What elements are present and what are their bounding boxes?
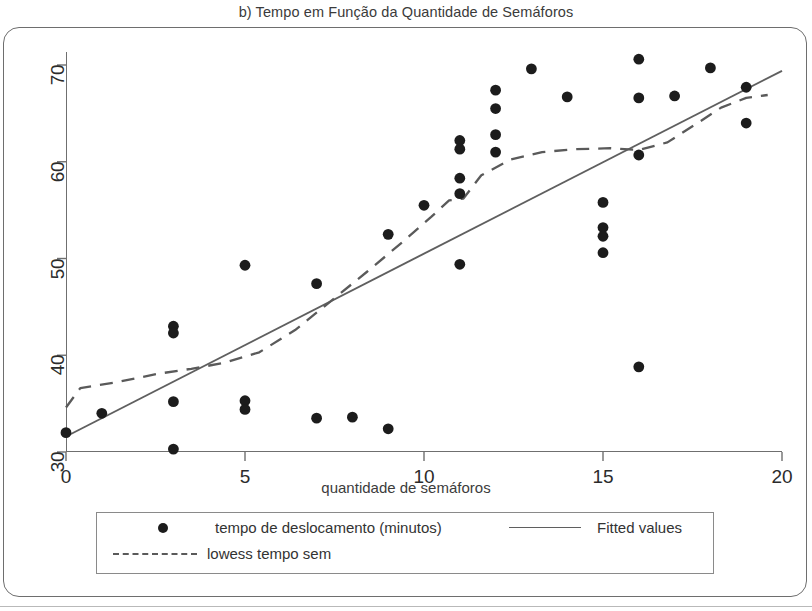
solid-line-icon xyxy=(497,527,593,528)
legend-label-lowess: lowess tempo sem xyxy=(203,545,331,562)
legend-item-points[interactable]: tempo de deslocamento (minutos) xyxy=(115,519,442,536)
filled-circle-icon xyxy=(115,523,211,533)
plot-area xyxy=(66,52,782,452)
legend-label-points: tempo de deslocamento (minutos) xyxy=(211,519,442,536)
page-bottom-divider xyxy=(0,606,812,607)
y-axis-line xyxy=(66,52,67,452)
x-axis-label: quantidade de semáforos xyxy=(0,479,812,496)
chart-legend: tempo de deslocamento (minutos) Fitted v… xyxy=(96,512,714,574)
y-tick-label: 70 xyxy=(47,65,69,95)
dashed-line-icon xyxy=(107,553,203,555)
legend-label-fitted: Fitted values xyxy=(593,519,682,536)
chart-figure: b) Tempo em Função da Quantidade de Semá… xyxy=(0,0,812,611)
legend-item-lowess[interactable]: lowess tempo sem xyxy=(107,545,331,562)
y-tick-label: 60 xyxy=(47,162,69,192)
y-tick-label: 40 xyxy=(47,355,69,385)
page-title: b) Tempo em Função da Quantidade de Semá… xyxy=(0,4,812,20)
legend-item-fitted[interactable]: Fitted values xyxy=(497,519,682,536)
x-axis-line xyxy=(66,451,782,452)
y-tick-label: 50 xyxy=(47,259,69,289)
